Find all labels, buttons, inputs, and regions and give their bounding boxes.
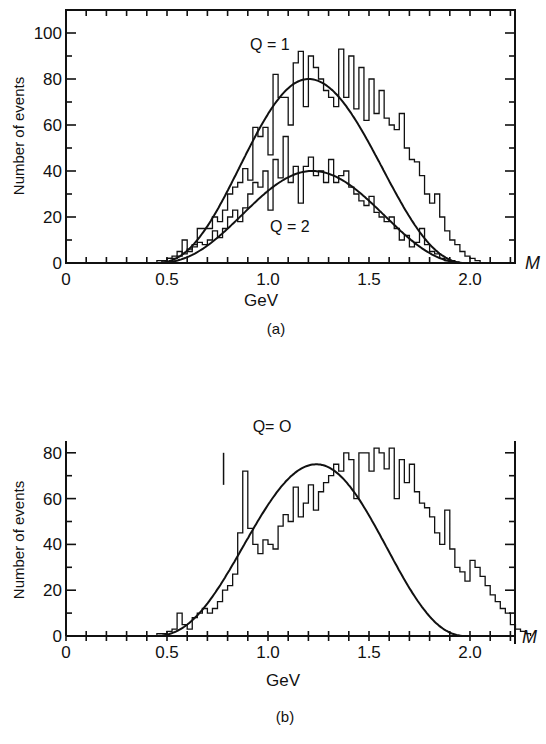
x-tick-label: 0.5 [155,643,179,662]
figure: 00.51.01.52.0020406080100 Q = 1 Q = 2 Ge… [0,0,546,744]
y-axis-title: Number of events [10,77,27,195]
x-axis-title: GeV [266,671,301,690]
x-tick-label: 1.0 [256,270,280,289]
y-tick-label: 0 [53,627,62,646]
y-tick-label: 60 [43,116,62,135]
series-label-q2: Q = 2 [270,218,310,235]
y-axis-title: Number of events [10,481,27,599]
x-axis-symbol: M [522,627,537,647]
x-tick-label: 0 [61,643,70,662]
panel-b-caption: (b) [276,708,294,725]
x-axis-symbol: M [525,253,540,273]
y-tick-label: 100 [34,24,62,43]
x-tick-label: 2.0 [458,270,482,289]
panel-a-caption: (a) [267,320,285,337]
y-tick-label: 40 [43,535,62,554]
x-tick-label: 0.5 [155,270,179,289]
y-tick-label: 80 [43,70,62,89]
histogram-q2 [157,137,480,264]
y-tick-label: 20 [43,208,62,227]
y-tick-label: 0 [53,254,62,273]
panel-a-chart: 00.51.01.52.0020406080100 Q = 1 Q = 2 Ge… [10,10,540,337]
panel-b-histogram [157,448,531,636]
x-tick-label: 1.0 [256,643,280,662]
x-axis-title: GeV [244,291,279,310]
fit-curve-q0 [153,464,466,636]
histogram-q0 [157,448,531,636]
x-tick-label: 2.0 [458,643,482,662]
panel-b-fit-curve [153,464,466,636]
y-tick-label: 40 [43,162,62,181]
y-tick-label: 20 [43,581,62,600]
y-tick-label: 80 [43,444,62,463]
panel-b-chart: 00.51.01.52.0020406080 Q= O GeV (b) M Nu… [10,418,537,725]
y-tick-label: 60 [43,490,62,509]
fit-curve-q2 [155,171,466,263]
x-tick-label: 1.5 [357,270,381,289]
series-label-q1: Q = 1 [250,36,290,53]
x-tick-label: 1.5 [357,643,381,662]
series-label-q0: Q= O [253,418,292,435]
x-tick-label: 0 [61,270,70,289]
